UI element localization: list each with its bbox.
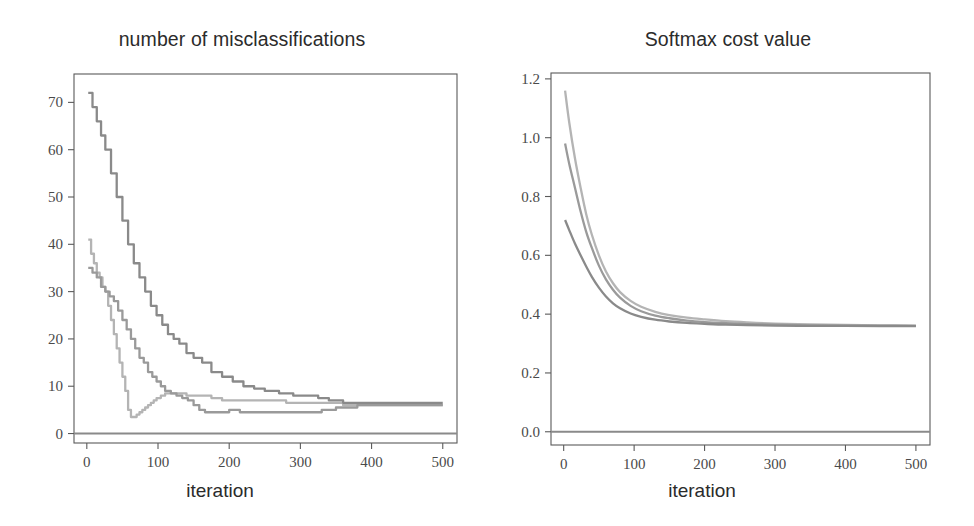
chart-panel-misclassifications: number of misclassifications 01020304050… [0, 0, 500, 526]
x-tick-label: 100 [623, 456, 646, 470]
y-tick-label: 0.2 [521, 365, 540, 381]
x-tick-label: 500 [432, 454, 455, 470]
plot-area-misclassifications: 0102030405060700100200300400500 [0, 0, 500, 470]
y-tick-label: 70 [48, 94, 63, 110]
x-tick-label: 0 [83, 454, 91, 470]
series-line-run-3 [565, 220, 916, 326]
x-tick-label: 300 [764, 456, 787, 470]
series-line-run-2 [565, 144, 916, 326]
figure-canvas: number of misclassifications 01020304050… [0, 0, 974, 526]
x-tick-label: 200 [693, 456, 716, 470]
x-tick-label: 100 [147, 454, 170, 470]
y-tick-label: 0.8 [521, 189, 540, 205]
y-tick-label: 50 [48, 189, 63, 205]
y-tick-label: 10 [48, 378, 63, 394]
x-tick-label: 400 [360, 454, 383, 470]
x-tick-label: 500 [905, 456, 928, 470]
y-tick-label: 0.4 [521, 306, 540, 322]
x-tick-label: 400 [834, 456, 857, 470]
series-line-run-3 [88, 93, 443, 403]
y-tick-label: 30 [48, 284, 63, 300]
x-tick-label: 200 [218, 454, 241, 470]
x-axis-label-softmax-cost: iteration [460, 480, 944, 502]
x-tick-label: 300 [289, 454, 312, 470]
y-tick-label: 20 [48, 331, 63, 347]
x-tick-label: 0 [560, 456, 568, 470]
y-tick-label: 0 [56, 426, 64, 442]
y-tick-label: 1.2 [521, 71, 540, 87]
y-tick-label: 40 [48, 236, 63, 252]
y-tick-label: 0.0 [521, 424, 540, 440]
plot-area-softmax-cost: 0.00.20.40.60.81.01.20100200300400500 [490, 0, 974, 470]
y-tick-label: 0.6 [521, 247, 540, 263]
series-line-run-1 [565, 91, 916, 326]
y-tick-label: 60 [48, 142, 63, 158]
x-axis-label-misclassifications: iteration [0, 480, 470, 502]
chart-panel-softmax-cost: Softmax cost value 0.00.20.40.60.81.01.2… [490, 0, 974, 526]
y-tick-label: 1.0 [521, 130, 540, 146]
